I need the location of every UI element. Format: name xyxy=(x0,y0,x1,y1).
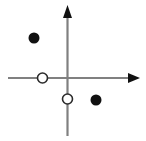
coordinate-plane-figure xyxy=(0,0,146,141)
figure-background xyxy=(0,0,146,141)
open-point-on-x-axis xyxy=(38,73,48,83)
filled-point-lower-right xyxy=(91,95,102,106)
coordinate-plane-svg xyxy=(0,0,146,141)
open-point-on-y-axis xyxy=(63,94,73,104)
filled-point-upper-left xyxy=(29,33,40,44)
